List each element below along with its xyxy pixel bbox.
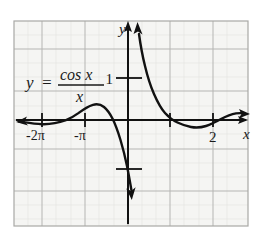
x-tick-label-negpi: -π xyxy=(74,128,86,143)
y-tick-label-1: 1 xyxy=(106,71,114,87)
function-graph: y = cos x x -2π -π 2 1 y x xyxy=(0,0,260,246)
x-axis-label: x xyxy=(242,126,250,142)
y-axis-label: y xyxy=(117,21,126,37)
figure-container: y = cos x x -2π -π 2 1 y x xyxy=(0,0,260,246)
x-tick-label-neg2pi: -2π xyxy=(26,128,45,143)
equation-numerator: cos x xyxy=(60,66,92,83)
equation-equals: = xyxy=(41,73,52,92)
equation-denominator: x xyxy=(75,88,83,105)
equation-lhs: y xyxy=(24,73,34,92)
x-tick-label-2: 2 xyxy=(209,129,217,145)
